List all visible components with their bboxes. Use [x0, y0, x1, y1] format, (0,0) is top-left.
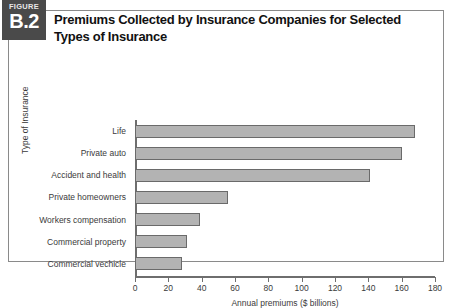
- bar: [135, 213, 200, 226]
- plot-area: [135, 120, 435, 275]
- x-axis-tick: [202, 277, 203, 282]
- x-axis-tick-label: 100: [295, 283, 309, 293]
- y-axis-tick-label: Workers compensation: [8, 209, 131, 231]
- x-axis-tick-label: 160: [395, 283, 409, 293]
- y-axis-tick-label: Private auto: [8, 142, 131, 164]
- bar-row: [135, 186, 435, 208]
- bar: [135, 169, 370, 182]
- x-axis-tick-labels: 020406080100120140160180: [135, 283, 435, 295]
- bar: [135, 147, 402, 160]
- x-axis-tick: [268, 277, 269, 282]
- y-axis-tick-label: Private homeowners: [8, 186, 131, 208]
- bar: [135, 235, 187, 248]
- x-axis-tick: [235, 277, 236, 282]
- bar-row: [135, 120, 435, 142]
- x-axis-tick-label: 140: [361, 283, 375, 293]
- bar: [135, 191, 228, 204]
- x-axis-tick: [335, 277, 336, 282]
- y-axis-tick-labels: LifePrivate autoAccident and healthPriva…: [8, 120, 131, 275]
- x-axis-tick: [168, 277, 169, 282]
- y-axis-tick-label: Commercial vechicle: [8, 253, 131, 275]
- bar-row: [135, 231, 435, 253]
- figure-badge-number: B.2: [9, 11, 39, 32]
- bar: [135, 257, 182, 270]
- y-axis-tick-label: Life: [8, 120, 131, 142]
- x-axis-tick: [435, 277, 436, 282]
- bar-series: [135, 120, 435, 275]
- bar-chart: Type of Insurance LifePrivate autoAccide…: [8, 58, 428, 254]
- x-axis-tick: [135, 277, 136, 282]
- x-axis-tick: [302, 277, 303, 282]
- y-axis-tick-label: Commercial property: [8, 231, 131, 253]
- bar-row: [135, 253, 435, 275]
- y-axis-tick-label: Accident and health: [8, 164, 131, 186]
- x-axis-tick-label: 0: [133, 283, 138, 293]
- bar: [135, 125, 415, 138]
- bar-row: [135, 142, 435, 164]
- figure-title: Premiums Collected by Insurance Companie…: [54, 12, 424, 45]
- figure-badge: FIGURE B.2: [2, 0, 46, 40]
- x-axis-tick-label: 40: [197, 283, 206, 293]
- x-axis-tick-label: 180: [428, 283, 442, 293]
- x-axis-tick-label: 20: [164, 283, 173, 293]
- bar-row: [135, 164, 435, 186]
- x-axis-tick: [402, 277, 403, 282]
- bar-row: [135, 209, 435, 231]
- x-axis-tick-label: 120: [328, 283, 342, 293]
- x-axis-tick-label: 60: [230, 283, 239, 293]
- x-axis-tick-label: 80: [264, 283, 273, 293]
- x-axis-title: Annual premiums ($ billions): [135, 298, 435, 308]
- x-axis-tick: [368, 277, 369, 282]
